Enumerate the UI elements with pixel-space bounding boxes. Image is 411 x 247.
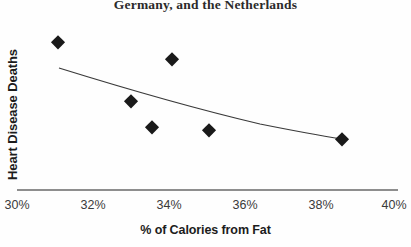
x-axis-line [17, 189, 398, 191]
x-tick-label-38: 38% [308, 198, 333, 212]
x-tick-label-34: 34% [156, 198, 181, 212]
plot-area: 30% 32% 34% 36% 38% 40% Heart Disease De… [0, 0, 411, 247]
x-tick-label-32: 32% [80, 198, 105, 212]
x-tick-label-30: 30% [4, 198, 29, 212]
x-tick-label-36: 36% [232, 198, 257, 212]
y-axis-title: Heart Disease Deaths [5, 40, 20, 190]
x-axis-title: % of Calories from Fat [0, 223, 411, 237]
x-tick-label-40: 40% [381, 198, 406, 212]
chart-page: Germany, and the Netherlands 30% 32% 34%… [0, 0, 411, 247]
trendline-path [0, 0, 411, 247]
